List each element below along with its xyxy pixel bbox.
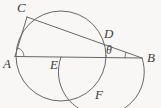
angle-theta-mark bbox=[125, 52, 126, 58]
segment-a-c bbox=[15, 17, 27, 57]
label-point-f: F bbox=[95, 88, 103, 101]
secant-c-d-b bbox=[27, 17, 142, 58]
label-point-c: C bbox=[17, 1, 26, 14]
label-point-b: B bbox=[147, 51, 155, 64]
label-point-e: E bbox=[50, 58, 58, 71]
label-point-d: D bbox=[104, 27, 113, 40]
label-angle-theta: θ bbox=[106, 44, 112, 56]
geometry-canvas bbox=[0, 0, 161, 108]
label-point-a: A bbox=[3, 57, 11, 70]
geometry-figure: C A D θ B E F bbox=[0, 0, 161, 108]
segment-a-b bbox=[15, 57, 142, 59]
angle-mark-at-a bbox=[18, 48, 24, 57]
